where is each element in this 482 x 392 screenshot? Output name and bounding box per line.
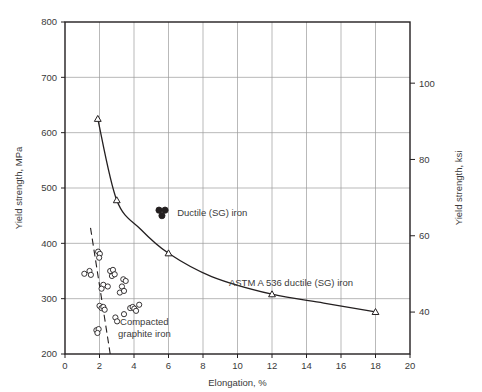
data-point-open-circle: [82, 271, 87, 276]
ytick-label-left: 800: [41, 16, 57, 27]
ytick-label-left: 200: [41, 348, 57, 359]
data-point-filled-circle: [159, 213, 165, 219]
y-axis-title-left: Yield strength, MPa: [13, 146, 24, 229]
data-point-open-circle: [97, 255, 102, 260]
ytick-label-right: 100: [419, 78, 435, 89]
cgi-annotation-line2: graphite iron: [118, 328, 171, 339]
data-point-open-circle: [133, 308, 138, 313]
xtick-label: 18: [370, 360, 381, 371]
ytick-label-right: 60: [419, 230, 430, 241]
xtick-label: 12: [267, 360, 278, 371]
ytick-label-left: 700: [41, 72, 57, 83]
data-point-open-circle: [123, 278, 128, 283]
data-point-open-circle: [121, 288, 126, 293]
data-point-open-circle: [99, 286, 104, 291]
xtick-label: 4: [131, 360, 136, 371]
ytick-label-right: 40: [419, 306, 430, 317]
astm-annotation-label: ASTM A 536 ductile (SG) iron: [229, 277, 353, 288]
xtick-label: 10: [232, 360, 243, 371]
ytick-label-left: 300: [41, 293, 57, 304]
yield-strength-vs-elongation-chart: 2003004005006007008000246810121416182040…: [0, 0, 482, 392]
cgi-annotation-line1: Compacted: [120, 316, 169, 327]
xtick-label: 8: [200, 360, 205, 371]
ductile-annotation-label: Ductile (SG) iron: [177, 207, 247, 218]
ytick-label-right: 80: [419, 154, 430, 165]
ytick-label-left: 600: [41, 127, 57, 138]
xtick-label: 14: [301, 360, 312, 371]
data-point-open-circle: [114, 319, 119, 324]
y-axis-title-right: Yield strength, ksi: [453, 151, 464, 226]
xtick-label: 20: [405, 360, 416, 371]
xtick-label: 0: [62, 360, 67, 371]
data-point-open-circle: [102, 307, 107, 312]
data-point-open-circle: [137, 302, 142, 307]
ytick-label-left: 400: [41, 238, 57, 249]
x-axis-title: Elongation, %: [208, 377, 267, 388]
xtick-label: 16: [336, 360, 347, 371]
data-point-open-circle: [88, 272, 93, 277]
data-point-open-circle: [95, 330, 100, 335]
xtick-label: 2: [97, 360, 102, 371]
data-point-open-circle: [105, 284, 110, 289]
xtick-label: 6: [166, 360, 171, 371]
ytick-label-left: 500: [41, 182, 57, 193]
chart-container: 2003004005006007008000246810121416182040…: [0, 0, 482, 392]
data-point-open-circle: [112, 272, 117, 277]
